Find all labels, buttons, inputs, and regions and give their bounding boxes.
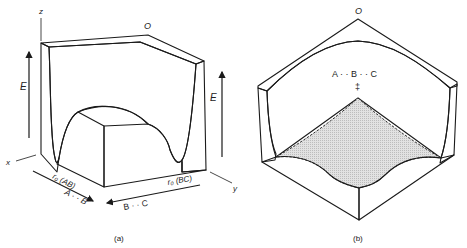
top-rim-a: [41, 35, 204, 64]
transition-state-label: A · · B · · C: [332, 69, 378, 79]
origin-label-a: O: [144, 21, 151, 31]
panel-b: O A · · B · · C ‡ (b): [258, 6, 457, 243]
z-axis-label: z: [38, 7, 43, 16]
bc-arrow: [107, 185, 200, 203]
panel-a: z x y O E E r₀ (AB) r₀ (BC) A · · B B · …: [5, 7, 238, 243]
caption-b: (b): [353, 234, 363, 243]
r0-ab-label: r₀ (AB): [51, 172, 77, 191]
top-rim-b: [258, 19, 457, 91]
potential-energy-surface-figure: z x y O E E r₀ (AB) r₀ (BC) A · · B B · …: [0, 0, 467, 248]
y-axis-label: y: [232, 184, 238, 193]
right-wall-a: [182, 61, 206, 172]
surface-a: [49, 42, 196, 163]
product-arrow-label: B · · C: [123, 198, 149, 212]
caption-a: (a): [114, 234, 124, 243]
x-axis-label: x: [5, 158, 11, 167]
energy-label-right: E: [210, 92, 217, 103]
y-axis: [210, 172, 232, 183]
origin-label-b: O: [355, 6, 362, 16]
energy-label-left: E: [20, 81, 27, 92]
x-axis: [16, 155, 36, 161]
reactant-arrow-label: A · · B: [62, 186, 89, 206]
dividing-surface-b: [276, 98, 441, 188]
transition-state-symbol: ‡: [355, 82, 360, 92]
